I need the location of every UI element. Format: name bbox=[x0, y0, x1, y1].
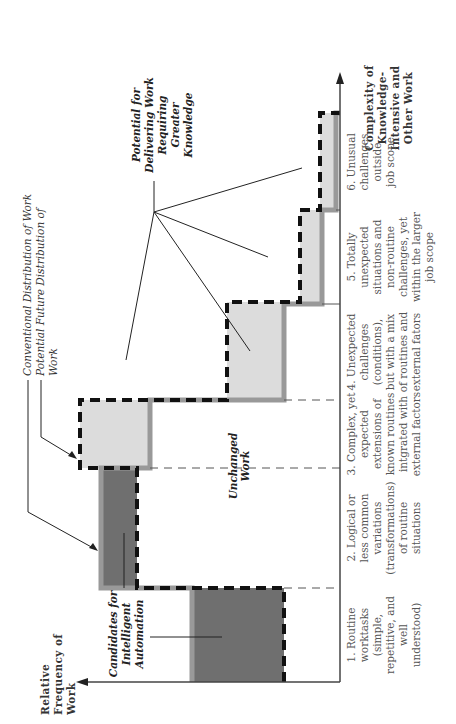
svg-text:challenges: challenges bbox=[358, 324, 370, 381]
svg-text:Other Work: Other Work bbox=[402, 72, 414, 145]
svg-text:outside: outside bbox=[371, 143, 383, 182]
category-label-4: 4. Unexpected challenges (conditions), b… bbox=[345, 311, 422, 392]
svg-text:Work: Work bbox=[239, 451, 251, 482]
svg-text:(transformations): (transformations) bbox=[384, 481, 396, 574]
svg-text:Knowledge: Knowledge bbox=[182, 92, 194, 158]
svg-text:Requiring: Requiring bbox=[156, 96, 168, 156]
svg-text:Unchanged: Unchanged bbox=[227, 432, 239, 499]
svg-text:Automation: Automation bbox=[133, 599, 145, 669]
svg-text:4. Unexpected: 4. Unexpected bbox=[345, 313, 357, 390]
svg-text:6. Unusual: 6. Unusual bbox=[345, 133, 357, 191]
legend-arrow-potential-icon bbox=[68, 451, 77, 459]
knowledge-region-cat4 bbox=[227, 302, 284, 400]
svg-text:5. Totally: 5. Totally bbox=[345, 232, 357, 281]
svg-text:intgrated with: intgrated with bbox=[397, 396, 409, 472]
svg-text:2. Logical or: 2. Logical or bbox=[345, 494, 357, 562]
candidates-label: Candidates for Intelligent Automation bbox=[107, 589, 145, 677]
complexity-axis-arrow-icon bbox=[336, 72, 344, 84]
svg-text:of routines and: of routines and bbox=[397, 311, 409, 392]
svg-text:Intelligent: Intelligent bbox=[120, 603, 132, 667]
unchanged-work-label: Unchanged Work bbox=[227, 432, 251, 499]
legend-potential-cont: Work bbox=[47, 348, 59, 376]
work-distribution-diagram: Unchanged Work Candidates for Intelligen… bbox=[0, 0, 456, 724]
svg-text:non-routine: non-routine bbox=[384, 226, 396, 288]
category-label-1: 1. Routine worktasks (simple, repetitive… bbox=[345, 596, 422, 674]
svg-text:variations: variations bbox=[371, 502, 383, 556]
svg-text:external factors: external factors bbox=[410, 392, 422, 476]
svg-text:worktasks: worktasks bbox=[358, 608, 370, 662]
svg-text:situations: situations bbox=[410, 502, 422, 554]
svg-text:Work: Work bbox=[65, 682, 77, 716]
knowledge-region-cat3 bbox=[80, 400, 150, 468]
svg-text:external fators: external fators bbox=[410, 313, 422, 391]
potential-knowledge-label: Potential for Delivering Work Requiring … bbox=[130, 77, 194, 173]
knowledge-region-cat5 bbox=[300, 210, 322, 304]
svg-text:Potential for: Potential for bbox=[130, 86, 142, 163]
svg-text:Greater: Greater bbox=[169, 101, 181, 148]
svg-text:1. Routine: 1. Routine bbox=[345, 608, 357, 663]
frequency-axis-arrow-icon bbox=[76, 678, 88, 686]
svg-text:Knowledge-: Knowledge- bbox=[376, 71, 388, 144]
svg-text:Delivering Work: Delivering Work bbox=[143, 77, 155, 173]
svg-text:challenges: challenges bbox=[358, 134, 370, 191]
svg-text:repetitive, and: repetitive, and bbox=[384, 596, 396, 674]
svg-text:(simple,: (simple, bbox=[371, 614, 383, 656]
svg-text:unexpected: unexpected bbox=[358, 226, 370, 288]
svg-text:of routine: of routine bbox=[397, 502, 409, 554]
svg-text:within the larger: within the larger bbox=[410, 211, 422, 302]
category-label-3: 3. Complex, yet expected extensions of k… bbox=[345, 392, 422, 476]
svg-text:Candidates for: Candidates for bbox=[107, 589, 119, 677]
legend: Conventional Distribution of Work Potent… bbox=[21, 194, 59, 377]
svg-text:but with a mix: but with a mix bbox=[384, 314, 396, 391]
svg-text:job scope: job scope bbox=[423, 232, 435, 284]
svg-text:Frequency of: Frequency of bbox=[52, 633, 64, 715]
automation-region-cat2 bbox=[101, 468, 137, 588]
svg-text:(conditions),: (conditions), bbox=[371, 319, 383, 386]
svg-text:extensions of: extensions of bbox=[371, 398, 383, 469]
category-label-2: 2. Logical or less common variations (tr… bbox=[345, 481, 422, 574]
svg-text:Relative: Relative bbox=[39, 664, 51, 715]
svg-text:well: well bbox=[397, 623, 409, 646]
legend-potential: Potential Future Distribution of bbox=[34, 206, 46, 377]
svg-text:job scope: job scope bbox=[384, 137, 396, 189]
legend-conventional: Conventional Distribution of Work bbox=[21, 194, 33, 376]
svg-text:3. Complex, yet: 3. Complex, yet bbox=[345, 392, 357, 476]
automation-region-cat1 bbox=[192, 588, 284, 682]
category-label-5: 5. Totally unexpected situations and non… bbox=[345, 211, 435, 302]
svg-text:understood): understood) bbox=[410, 603, 422, 668]
svg-text:challenges, yet: challenges, yet bbox=[397, 216, 409, 297]
svg-text:situations and: situations and bbox=[371, 219, 383, 294]
svg-text:less common: less common bbox=[358, 493, 370, 562]
svg-text:known routines: known routines bbox=[384, 393, 396, 476]
svg-text:expected: expected bbox=[358, 410, 370, 458]
legend-arrow-conventional-icon bbox=[89, 543, 98, 551]
frequency-axis-label: Relative Frequency of Work bbox=[39, 633, 77, 716]
